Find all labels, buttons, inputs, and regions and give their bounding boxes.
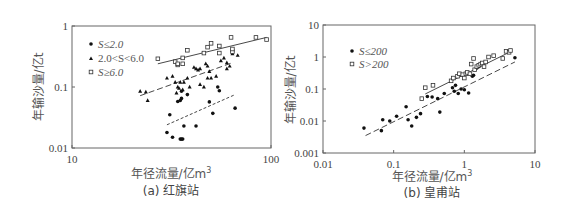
data-point xyxy=(233,106,237,110)
data-point xyxy=(501,57,505,61)
data-point xyxy=(174,91,178,95)
y-tick-label: 0.1 xyxy=(305,83,319,95)
legend-b-0: S≤200 xyxy=(359,45,388,57)
data-point xyxy=(194,124,198,128)
data-point xyxy=(395,115,399,119)
fit-line xyxy=(167,95,235,125)
data-point xyxy=(182,80,186,84)
data-point xyxy=(173,80,177,84)
data-point xyxy=(419,112,423,116)
data-point xyxy=(222,56,226,60)
y-tick-label: 1 xyxy=(314,51,320,63)
chart-b: 0.0010.010.11100.010.1110 S≤200 S>200 年输… xyxy=(283,19,541,200)
data-point xyxy=(410,124,414,128)
data-point xyxy=(436,97,440,101)
data-point xyxy=(431,84,435,88)
data-point xyxy=(381,118,385,122)
chart-a: 0.010.1110100 S≤2.0 2.0<S<6.0 S≥6.0 年输沙量… xyxy=(31,20,280,198)
data-point xyxy=(426,95,430,99)
data-point xyxy=(218,51,222,55)
data-point xyxy=(265,38,269,42)
chart-b-legend: S≤200 S>200 xyxy=(350,45,389,70)
data-point xyxy=(146,98,150,102)
data-point xyxy=(438,110,442,114)
data-point xyxy=(209,42,213,46)
data-point xyxy=(472,57,476,61)
data-point xyxy=(463,76,467,80)
data-point xyxy=(231,47,235,51)
data-point xyxy=(218,44,222,48)
data-point xyxy=(492,54,496,58)
data-point xyxy=(451,86,455,90)
data-point xyxy=(452,76,456,80)
data-point xyxy=(406,118,410,122)
data-point xyxy=(463,88,467,92)
data-point xyxy=(388,119,392,123)
data-point xyxy=(181,62,185,66)
data-point xyxy=(467,91,471,95)
data-point xyxy=(229,36,233,40)
data-point xyxy=(181,137,185,141)
data-point xyxy=(176,62,180,66)
data-point xyxy=(186,48,190,52)
data-point xyxy=(185,76,189,80)
data-point xyxy=(156,57,160,61)
x-tick-label: 0.01 xyxy=(313,158,332,170)
data-point xyxy=(254,36,258,40)
data-point xyxy=(171,74,175,78)
data-point xyxy=(236,53,240,57)
data-point xyxy=(211,112,215,116)
data-point xyxy=(206,45,210,49)
data-point xyxy=(202,85,206,89)
data-point xyxy=(468,72,472,76)
data-point xyxy=(202,51,206,55)
data-point xyxy=(420,97,424,101)
data-point xyxy=(415,116,419,120)
chart-b-ticks: 0.0010.010.11100.010.1110 xyxy=(294,19,541,170)
legend-a-1: 2.0<S<6.0 xyxy=(98,52,145,64)
x-tick-label: 10 xyxy=(67,153,79,165)
data-point xyxy=(214,74,218,78)
x-tick-label: 100 xyxy=(263,153,280,165)
x-tick-label: 10 xyxy=(530,158,542,170)
chart-b-ylabel: 年输沙量/亿t xyxy=(283,55,298,124)
x-tick-label: 1 xyxy=(462,158,468,170)
chart-b-caption: (b) 皇甫站 xyxy=(404,186,461,200)
legend-b-1: S>200 xyxy=(359,58,389,70)
chart-a-ticks: 0.010.1110100 xyxy=(49,20,280,165)
data-point xyxy=(456,92,460,96)
data-point xyxy=(430,95,434,99)
legend-a-0: S≤2.0 xyxy=(98,38,124,50)
data-point xyxy=(182,124,186,128)
data-point xyxy=(165,131,169,135)
data-point xyxy=(181,88,185,92)
chart-a-ylabel: 年输沙量/亿t xyxy=(31,52,46,121)
y-tick-label: 0.01 xyxy=(300,115,319,127)
data-point xyxy=(362,126,366,130)
data-point xyxy=(482,65,486,69)
data-point xyxy=(138,89,142,93)
data-point xyxy=(168,113,172,117)
figure: 0.010.1110100 S≤2.0 2.0<S<6.0 S≥6.0 年输沙量… xyxy=(0,0,571,210)
chart-a-legend: S≤2.0 2.0<S<6.0 S≥6.0 xyxy=(89,38,145,78)
data-point xyxy=(225,61,229,65)
fit-line xyxy=(366,62,515,136)
data-point xyxy=(206,76,210,80)
data-point xyxy=(380,129,384,133)
y-tick-label: 1 xyxy=(63,20,69,32)
data-point xyxy=(180,97,184,101)
data-point xyxy=(208,100,212,104)
data-point xyxy=(472,73,476,77)
data-point xyxy=(487,55,491,59)
data-point xyxy=(198,66,202,70)
data-point xyxy=(452,89,456,93)
chart-a-xlabel: 年径流量/亿m3 xyxy=(131,166,212,181)
data-point xyxy=(198,82,202,86)
chart-a-fit-lines xyxy=(140,37,266,124)
data-point xyxy=(513,56,517,60)
data-point xyxy=(165,76,169,80)
data-point xyxy=(218,89,222,93)
legend-a-2: S≥6.0 xyxy=(98,66,124,78)
data-point xyxy=(423,86,427,90)
chart-a-points xyxy=(138,36,268,141)
